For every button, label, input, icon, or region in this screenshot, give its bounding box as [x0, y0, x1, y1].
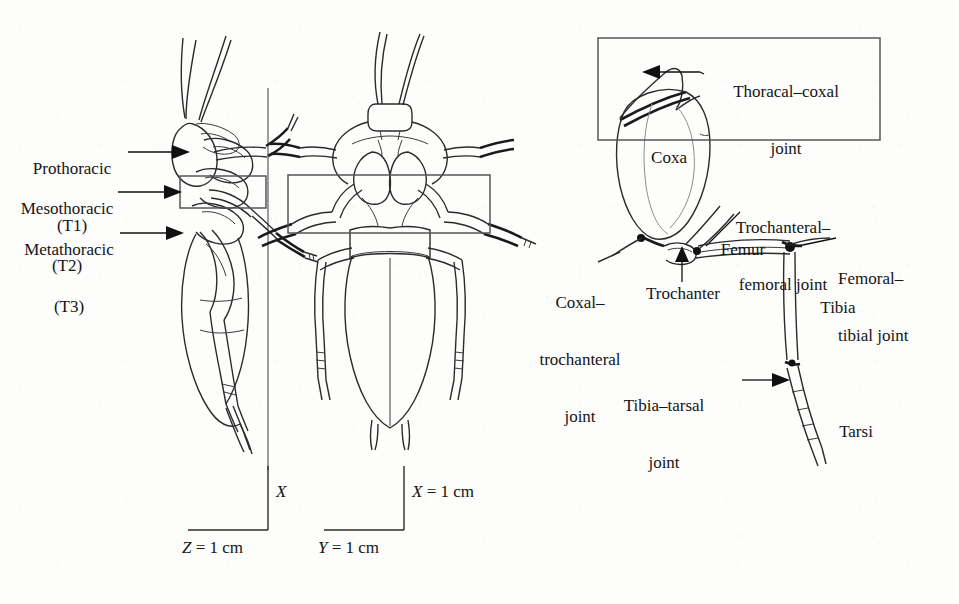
label-dorsal-scale-vertical: X = 1 cm [412, 482, 522, 501]
dorsal-scale-vertical-letter: X [412, 482, 422, 501]
label-dorsal-scale-horizontal: Y = 1 cm [318, 538, 438, 557]
label-tibia-tarsal-joint-line1: Tibia–tarsal [594, 396, 734, 415]
dorsal-view-drawing [258, 32, 536, 450]
label-lateral-scale-horizontal: Z = 1 cm [182, 538, 302, 557]
label-coxa: Coxa [638, 148, 700, 167]
label-metathoracic: Metathoracic (T3) [8, 202, 130, 354]
thoracal-coxal-joint-arrow [642, 65, 704, 79]
label-trochanter: Trochanter [637, 284, 729, 303]
label-tibia-tarsal-joint-line2: joint [594, 453, 734, 472]
label-tibia-tarsal-joint: Tibia–tarsal joint [594, 358, 734, 510]
tibia-tarsal-joint-arrow [742, 373, 790, 387]
label-thoracal-coxal-joint: Thoracal–coxal joint [706, 44, 866, 196]
label-lateral-scale-vertical: X [276, 482, 316, 501]
label-femur: Femur [712, 240, 774, 259]
label-metathoracic-line1: Metathoracic [8, 240, 130, 259]
label-trochanteral-femoral-joint-line1: Trochanteral– [718, 218, 848, 237]
label-trochanteral-femoral-joint-line2: femoral joint [718, 275, 848, 294]
label-femoral-tibial-joint-line1: Femoral– [838, 269, 956, 288]
label-coxal-trochanteral-joint-line1: Coxal– [521, 293, 639, 312]
label-thoracal-coxal-joint-line1: Thoracal–coxal [706, 82, 866, 101]
label-metathoracic-line2: (T3) [8, 297, 130, 316]
lateral-scale-bar [188, 466, 268, 530]
lateral-scale-axis-letter: Z [182, 538, 191, 557]
prothoracic-arrow [128, 145, 190, 159]
label-tibia: Tibia [812, 298, 864, 317]
dorsal-scale-bar [324, 466, 404, 530]
insect-anatomy-figure: Prothoracic (T1) Mesothoracic (T2) Metat… [0, 0, 959, 604]
dorsal-scale-horizontal-letter: Y [318, 538, 327, 557]
label-tarsi: Tarsi [828, 422, 884, 441]
label-femoral-tibial-joint-line2: tibial joint [838, 326, 956, 345]
lateral-view-drawing [172, 36, 318, 454]
label-thoracal-coxal-joint-line2: joint [706, 139, 866, 158]
